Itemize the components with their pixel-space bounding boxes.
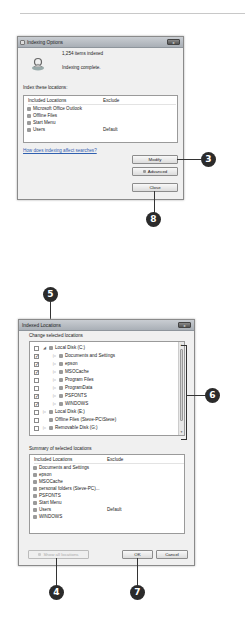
callout-bracket: [181, 439, 187, 440]
dialog-title: Indexing Options: [27, 40, 63, 45]
title-bar: Indexed Locations x: [19, 320, 194, 331]
expand-icon[interactable]: ▷: [43, 408, 46, 416]
tree-item[interactable]: ✓ ▷ MSOCache: [30, 368, 178, 376]
tree-item[interactable]: ▷ ProgramData: [30, 384, 178, 392]
tree-item[interactable]: ▷ Removable Disk (G:): [30, 424, 178, 432]
cancel-button[interactable]: Cancel: [156, 550, 188, 559]
tree-scrollbar[interactable]: ▲ ▼: [178, 342, 184, 435]
advanced-button[interactable]: Advanced: [132, 167, 178, 176]
scroll-thumb[interactable]: [180, 349, 183, 421]
list-header: Included Locations Exclude: [28, 97, 176, 105]
outlook-icon: [27, 107, 31, 111]
indexing-status: Indexing complete.: [62, 65, 101, 70]
tree-item-label: ProgramData: [65, 385, 92, 390]
location-checkbox[interactable]: ✓: [34, 362, 39, 367]
index-locations-label: Index these locations:: [23, 85, 67, 90]
expand-icon[interactable]: ▷: [53, 400, 56, 408]
locations-tree[interactable]: ◢ Local Disk (C:) ✓ ▷ Documents and Sett…: [29, 341, 185, 436]
callout-7: 7: [130, 585, 145, 600]
expand-icon[interactable]: ▷: [43, 424, 46, 432]
tree-item-label: MSOCache: [65, 369, 89, 374]
callout-3: 3: [201, 152, 216, 167]
tree-item-label: Documents and Settings: [65, 353, 115, 358]
dialog-title: Indexed Locations: [22, 323, 61, 328]
tree-item[interactable]: ✓ ▷ WINDOWS: [30, 400, 178, 408]
tree-item[interactable]: ✓ ▷ Documents and Settings: [30, 352, 178, 360]
indexing-status-icon: [31, 57, 45, 71]
close-button[interactable]: Close: [132, 183, 178, 192]
expand-icon[interactable]: ▷: [53, 376, 56, 384]
indexing-options-dialog: Indexing Options x 1,254 items indexed I…: [17, 36, 184, 200]
help-link[interactable]: How does indexing affect searches?: [23, 148, 97, 153]
summary-list[interactable]: Included Locations Exclude Documents and…: [29, 454, 185, 534]
tree-item-label: Program Files: [65, 377, 94, 382]
callout-line: [177, 159, 201, 160]
summary-label: Summary of selected locations: [29, 446, 92, 451]
tree-item-label: epson: [65, 361, 78, 366]
callout-line: [137, 558, 138, 586]
folder-icon: [59, 394, 63, 398]
folder-icon: [33, 466, 37, 470]
location-checkbox[interactable]: [34, 386, 39, 391]
tree-item[interactable]: ▷ Program Files: [30, 376, 178, 384]
folder-icon: [59, 402, 63, 406]
location-checkbox[interactable]: [34, 378, 39, 383]
drive-icon: [49, 418, 53, 422]
folder-icon: [59, 370, 63, 374]
tree-item[interactable]: Offline Files (Steve-PC\Steve): [30, 416, 178, 424]
tree-item[interactable]: ✓ ▷ PSFONTS: [30, 392, 178, 400]
location-checkbox[interactable]: ✓: [34, 394, 39, 399]
tree-item[interactable]: ◢ Local Disk (C:): [30, 344, 178, 352]
folder-icon: [33, 480, 37, 484]
location-checkbox[interactable]: [34, 410, 39, 415]
modify-button[interactable]: Modify: [132, 155, 178, 164]
shield-icon: [38, 553, 41, 556]
show-all-locations-button[interactable]: Show all locations: [28, 550, 89, 559]
column-header-exclude[interactable]: Exclude: [107, 456, 123, 464]
expand-icon[interactable]: ▷: [53, 352, 56, 360]
location-checkbox[interactable]: [34, 426, 39, 431]
callout-8: 8: [146, 212, 161, 227]
callout-4: 4: [49, 585, 64, 600]
column-header-exclude[interactable]: Exclude: [103, 97, 119, 105]
callout-line: [154, 191, 155, 213]
tree-item[interactable]: ▷ Local Disk (E:): [30, 408, 178, 416]
folder-icon: [27, 121, 31, 125]
column-header-included[interactable]: Included Locations: [28, 98, 66, 103]
location-checkbox[interactable]: ✓: [34, 354, 39, 359]
location-checkbox[interactable]: ✓: [34, 402, 39, 407]
tree-item[interactable]: ✓ ▷ epson: [30, 360, 178, 368]
tree-item-label: Local Disk (E:): [55, 409, 85, 414]
locations-list[interactable]: Included Locations Exclude Microsoft Off…: [23, 95, 178, 143]
folder-icon: [33, 487, 37, 491]
drive-icon: [49, 410, 53, 414]
location-checkbox[interactable]: [34, 418, 39, 423]
list-item[interactable]: WINDOWS: [33, 513, 183, 521]
folder-icon: [33, 515, 37, 519]
offline-files-icon: [27, 114, 31, 118]
title-bar: Indexing Options x: [18, 37, 183, 48]
callout-6: 6: [205, 388, 220, 403]
location-checkbox[interactable]: ✓: [34, 370, 39, 375]
callout-line: [56, 558, 57, 586]
column-header-included[interactable]: Included Locations: [34, 457, 72, 462]
callout-5: 5: [43, 287, 58, 302]
callout-bracket: [181, 345, 187, 346]
scroll-down-icon[interactable]: ▼: [180, 430, 183, 434]
drive-icon: [49, 346, 53, 350]
expand-icon[interactable]: ▷: [53, 392, 56, 400]
list-item[interactable]: UsersDefault: [27, 126, 177, 134]
expand-icon[interactable]: ▷: [53, 368, 56, 376]
window-icon: [20, 40, 25, 45]
expand-icon[interactable]: ▷: [53, 384, 56, 392]
folder-icon: [59, 362, 63, 366]
callout-line: [186, 395, 206, 396]
folder-icon: [27, 128, 31, 132]
location-checkbox[interactable]: [34, 346, 39, 351]
list-header: Included Locations Exclude: [34, 456, 184, 464]
tree-item-label: PSFONTS: [65, 393, 87, 398]
expand-icon[interactable]: ◢: [43, 344, 46, 352]
close-icon[interactable]: x: [178, 322, 191, 328]
close-icon[interactable]: x: [167, 39, 180, 45]
expand-icon[interactable]: ▷: [53, 360, 56, 368]
